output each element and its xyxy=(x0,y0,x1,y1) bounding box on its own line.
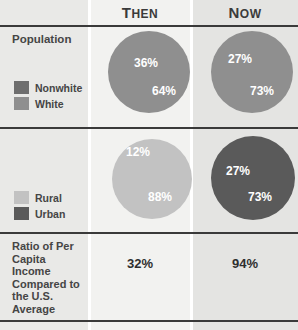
pie-slice-label-population-then-white: 64% xyxy=(152,84,176,98)
comparison-table: THEN NOW Population Nonwhite White 36% 6… xyxy=(0,0,298,330)
row-divider-2 xyxy=(0,232,298,234)
footer-rule xyxy=(0,320,298,322)
pie-slice-label-urban-now: 73% xyxy=(248,190,272,204)
header-rule xyxy=(0,25,298,27)
swatch-white-icon xyxy=(14,97,29,110)
legend-label-white: White xyxy=(35,98,64,110)
legend-item-nonwhite: Nonwhite xyxy=(14,80,82,95)
legend-label-rural: Rural xyxy=(35,192,62,204)
pie-slice-label-urban-then: 12% xyxy=(126,145,150,159)
row-divider-1 xyxy=(0,127,298,129)
swatch-rural-icon xyxy=(14,191,29,204)
row-title-population: Population xyxy=(12,33,71,45)
row-title-ratio: Ratio of Per Capita Income Compared to t… xyxy=(12,240,86,316)
legend-item-rural: Rural xyxy=(14,190,65,205)
legend-rural-urban: Rural Urban xyxy=(14,190,65,222)
swatch-nonwhite-icon xyxy=(14,81,29,94)
column-divider-1 xyxy=(88,0,91,330)
legend-population: Nonwhite White xyxy=(14,80,82,112)
pie-slice-label-rural-then: 88% xyxy=(148,190,172,204)
pie-chart-population-now xyxy=(211,31,293,113)
column-header-now: NOW xyxy=(192,2,298,24)
legend-label-nonwhite: Nonwhite xyxy=(35,82,82,94)
column-divider-2 xyxy=(190,0,193,330)
ratio-value-then: 32% xyxy=(90,256,190,271)
column-header-now-rest: OW xyxy=(240,7,262,21)
column-header-then-initial: T xyxy=(122,4,132,21)
pie-slice-label-population-then-nonwhite: 36% xyxy=(134,56,158,70)
pie-chart-population-then xyxy=(108,31,190,113)
swatch-urban-icon xyxy=(14,207,29,220)
pie-chart-rural-urban-then xyxy=(112,139,192,219)
column-header-now-initial: N xyxy=(228,4,239,21)
pie-chart-rural-urban-now xyxy=(211,136,295,220)
legend-item-white: White xyxy=(14,96,82,111)
legend-item-urban: Urban xyxy=(14,206,65,221)
legend-label-urban: Urban xyxy=(35,208,65,220)
pie-slice-label-population-now-white: 73% xyxy=(250,84,274,98)
pie-slice-label-population-now-nonwhite: 27% xyxy=(228,52,252,66)
pie-slice-label-rural-now: 27% xyxy=(226,164,250,178)
ratio-value-now: 94% xyxy=(192,256,298,271)
column-header-then: THEN xyxy=(90,2,190,24)
column-header-then-rest: HEN xyxy=(131,7,158,21)
